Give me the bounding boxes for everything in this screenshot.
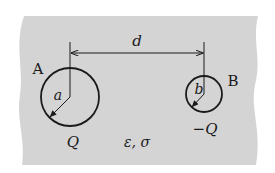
sphere-a-charge-label: Q	[67, 133, 79, 151]
sphere-b-name: B	[227, 72, 238, 90]
medium-properties-label: ε, σ	[124, 134, 150, 150]
sphere-a-radius-label: a	[54, 87, 62, 103]
sphere-a-name: A	[32, 60, 44, 78]
sphere-b-charge-label: −Q	[193, 120, 218, 138]
sphere-b-radius-label: b	[195, 81, 204, 97]
separation-label: d	[132, 32, 142, 50]
two-spheres-diagram: d A a Q B b −Q ε, σ	[0, 0, 275, 173]
